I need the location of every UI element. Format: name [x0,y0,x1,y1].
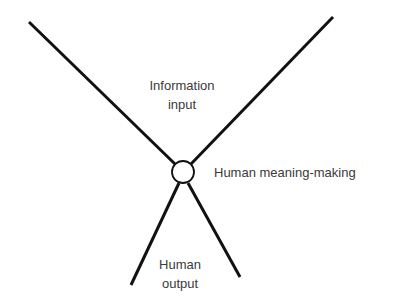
information-input-label: Information input [142,76,222,114]
human-output-line1: Human [150,255,210,274]
human-output-line2: output [150,274,210,293]
diagram-canvas: Information input Human meaning-making H… [0,0,395,301]
meaning-making-node [172,161,194,183]
information-input-line1: Information [142,76,222,95]
information-input-line2: input [142,95,222,114]
human-output-label: Human output [150,255,210,293]
human-meaning-making-label: Human meaning-making [214,163,356,182]
